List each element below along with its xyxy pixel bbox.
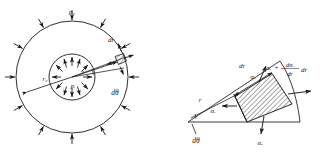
inner-pressure-label: pᵢ xyxy=(70,82,75,89)
gradient-denominator: dr xyxy=(287,70,293,77)
figure-canvas: p₀ r₀ pᵢ r dr dθ xyxy=(0,0,324,154)
right-diagram-group: r dr dθ σᵣ σₒ σₒ σᵣ + dσᵣ dr dr xyxy=(188,61,311,147)
element-thickness-label-left: dr xyxy=(108,36,115,44)
outer-pressure-label: p₀ xyxy=(68,8,76,16)
sigma-r-gradient-arrow xyxy=(288,91,311,94)
element-angle-label-left: dθ xyxy=(111,88,119,97)
thickness-label-right: dr xyxy=(239,62,246,70)
outer-radius-label: r₀ xyxy=(42,75,48,83)
gradient-base: σᵣ xyxy=(266,64,271,72)
sigma-theta-top-label: σₒ xyxy=(250,73,255,80)
angle-leader-right xyxy=(192,124,196,134)
infinitesimal-element-left xyxy=(115,54,127,65)
sigma-theta-bottom-arrow xyxy=(261,116,264,134)
radius-label-right: r xyxy=(199,96,202,104)
diagram-svg: p₀ r₀ pᵢ r dr dθ xyxy=(0,0,324,154)
sigma-theta-bottom-label: σₒ xyxy=(257,139,262,146)
angle-label-right: dθ xyxy=(192,136,200,145)
gradient-numerator: dσᵣ xyxy=(286,61,294,68)
gradient-multiplier: dr xyxy=(301,66,308,74)
gradient-operator: + xyxy=(274,64,279,72)
left-diagram-group: p₀ r₀ pᵢ r dr dθ xyxy=(5,8,139,144)
sigma-r-label: σᵣ xyxy=(210,107,215,115)
